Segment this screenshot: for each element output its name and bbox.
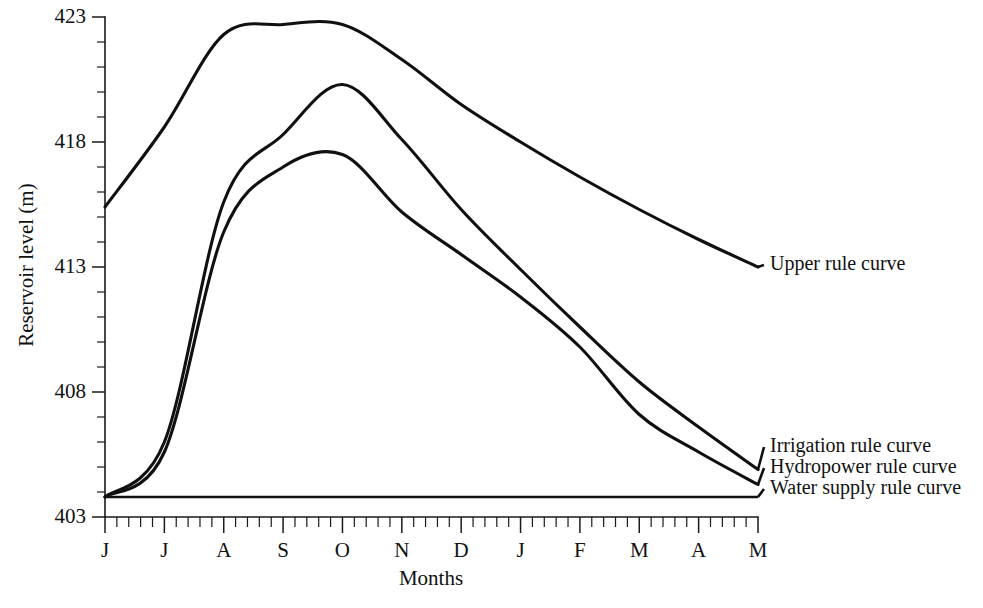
series-label-hydropower-rule-curve: Hydropower rule curve — [770, 455, 957, 478]
chart-series — [105, 21, 758, 497]
series-labels: Upper rule curveIrrigation rule curveHyd… — [758, 252, 961, 499]
x-axis-ticks — [105, 517, 758, 533]
y-axis-title: Reservoir level (m) — [14, 183, 38, 346]
series-label-upper-rule-curve: Upper rule curve — [770, 252, 906, 275]
x-tick-label: A — [216, 538, 232, 562]
x-tick-label: D — [454, 538, 469, 562]
series-line-hydropower-rule-curve — [105, 151, 758, 497]
x-axis: JJASONDJFMAM — [101, 517, 768, 562]
x-tick-label: F — [574, 538, 586, 562]
series-label-irrigation-rule-curve: Irrigation rule curve — [770, 434, 931, 457]
y-tick-label: 418 — [55, 129, 87, 153]
x-tick-label: S — [277, 538, 289, 562]
x-tick-label: J — [516, 538, 524, 562]
x-tick-label: N — [394, 538, 409, 562]
x-tick-label: M — [749, 538, 768, 562]
x-tick-label: M — [630, 538, 649, 562]
series-leader-line — [758, 265, 764, 267]
series-line-irrigation-rule-curve — [105, 84, 758, 497]
chart-canvas: 403408413418423 JJASONDJFMAM Upper rule … — [0, 0, 983, 608]
series-leader-line — [758, 447, 764, 470]
x-tick-label: O — [335, 538, 350, 562]
y-axis-tick-labels: 403408413418423 — [55, 4, 87, 528]
y-tick-label: 403 — [55, 504, 87, 528]
series-label-water-supply-rule-curve: Water supply rule curve — [770, 476, 961, 499]
x-tick-label: J — [160, 538, 168, 562]
chart-figure: 403408413418423 JJASONDJFMAM Upper rule … — [0, 0, 983, 608]
y-axis: 403408413418423 — [55, 4, 106, 528]
x-axis-title: Months — [399, 566, 463, 590]
y-tick-label: 423 — [55, 4, 87, 28]
y-axis-ticks — [92, 17, 105, 517]
series-line-upper-rule-curve — [105, 21, 758, 267]
series-leader-line — [758, 489, 764, 497]
x-axis-tick-labels: JJASONDJFMAM — [101, 538, 768, 562]
x-tick-label: J — [101, 538, 109, 562]
y-tick-label: 408 — [55, 379, 87, 403]
y-tick-label: 413 — [55, 254, 87, 278]
x-tick-label: A — [691, 538, 707, 562]
